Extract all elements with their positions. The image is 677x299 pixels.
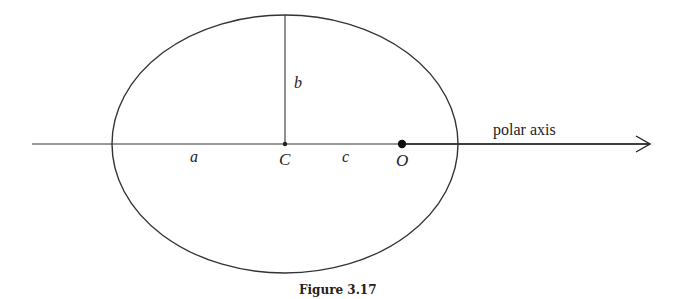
pole-point-o (398, 140, 406, 148)
label-c: c (342, 148, 349, 165)
label-b: b (294, 74, 302, 91)
label-a: a (190, 148, 198, 165)
ellipse-polar-diagram: b a c C O polar axis Figure 3.17 (0, 0, 677, 299)
label-point-c: C (279, 150, 291, 169)
polar-axis-label: polar axis (493, 121, 556, 139)
label-point-o: O (396, 151, 408, 170)
center-point-c (283, 142, 287, 146)
figure-caption: Figure 3.17 (299, 283, 377, 297)
